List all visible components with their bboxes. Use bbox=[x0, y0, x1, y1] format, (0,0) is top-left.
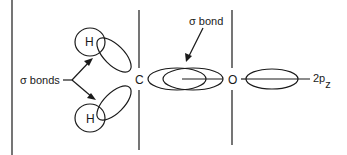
sigma-bond-label: σ bond bbox=[189, 15, 223, 27]
orbital-2p-subscript: z bbox=[325, 78, 331, 90]
carbon-label: C bbox=[135, 73, 144, 87]
h-top-label: H bbox=[85, 35, 94, 49]
oxygen-label: O bbox=[228, 73, 237, 87]
sigma-bonds-arrow-bottom bbox=[72, 80, 92, 97]
arrowhead-top bbox=[84, 58, 93, 66]
sigma-bond-arrow bbox=[188, 28, 203, 58]
arrowhead-sigma-bond bbox=[185, 53, 192, 62]
c-sp2-lobe-top bbox=[91, 32, 136, 77]
sigma-bonds-label: σ bonds bbox=[20, 74, 60, 86]
orbital-2p-label: 2pz bbox=[313, 72, 331, 90]
c-sp2-lobe-bottom bbox=[91, 80, 136, 125]
orbital-diagram: H H C O σ bonds σ bond 2pz bbox=[0, 0, 347, 155]
h-bottom-label: H bbox=[86, 112, 95, 126]
